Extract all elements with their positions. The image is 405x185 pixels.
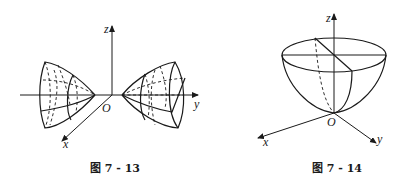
z-axis-label: z bbox=[103, 22, 109, 36]
figure-7-14: z x y O 图 7 - 14 bbox=[258, 11, 386, 175]
y-axis bbox=[334, 113, 376, 143]
x-axis-label: x bbox=[62, 137, 69, 151]
origin-label: O bbox=[327, 115, 336, 129]
x-axis bbox=[258, 113, 334, 138]
y-axis-label: y bbox=[376, 132, 383, 146]
y-axis-label: y bbox=[193, 97, 200, 111]
figure-7-13: z y x O 图 7 - 13 bbox=[20, 22, 200, 175]
x-axis-label: x bbox=[262, 135, 269, 149]
origin-label: O bbox=[102, 101, 111, 115]
figure-caption: 图 7 - 13 bbox=[90, 162, 140, 175]
z-axis-label: z bbox=[325, 11, 331, 25]
diagram-canvas: z y x O 图 7 - 13 z x y O 图 bbox=[0, 0, 405, 185]
figure-caption: 图 7 - 14 bbox=[312, 162, 362, 175]
